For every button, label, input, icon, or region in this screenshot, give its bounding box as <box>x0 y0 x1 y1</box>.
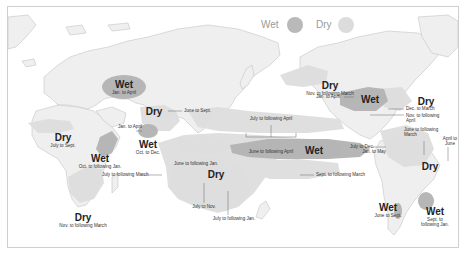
region-period-indonesia-australia: June to following Jan. <box>174 162 218 167</box>
region-period-central-america: June to following March <box>404 128 444 137</box>
region-period-west-africa: July to Sept. <box>50 144 75 149</box>
region-type-sri-lanka: Wet <box>139 140 157 150</box>
region-type-brazil: Dry <box>422 162 439 172</box>
iceland-landmass <box>22 59 36 67</box>
region-period-eastern-us: Dec. to March <box>406 107 435 112</box>
region-period-central-pacific: June to following April <box>249 150 293 155</box>
legend-dry-swatch <box>338 17 354 33</box>
new-zealand-landmass <box>256 201 270 219</box>
region-period-indonesia-march: July to following March <box>102 173 148 178</box>
region-period-central-pacific-north: July to following April <box>250 117 293 122</box>
region-type-central-asia: Wet <box>115 80 133 90</box>
region-period-brazil: April to June <box>439 137 459 146</box>
region-period-south-pacific: Sept. to following March <box>316 173 365 178</box>
region-type-east-africa: Wet <box>91 154 109 164</box>
region-period-ecuador: Jan. to May <box>362 150 386 155</box>
region-period-se-south-america: Sept. to following Jan. <box>418 218 452 227</box>
greenland-west-landmass <box>8 15 36 49</box>
region-type-alaska: Dry <box>322 81 339 91</box>
region-type-us-south: Wet <box>361 95 379 105</box>
region-period-sri-lanka: Oct. to Dec. <box>136 151 160 156</box>
region-period-india: June to Sept. <box>184 109 211 114</box>
region-type-central-pacific: Wet <box>305 146 323 156</box>
region-type-west-africa: Dry <box>55 133 72 143</box>
arctic-islands-landmass <box>66 23 130 35</box>
region-period-gulf: Nov. to following April <box>406 114 446 123</box>
region-type-se-south-america: Wet <box>426 207 444 217</box>
region-type-india: Dry <box>146 107 163 117</box>
legend-wet-label: Wet <box>261 19 279 30</box>
legend-dry-label: Dry <box>316 19 332 30</box>
region-period-us-south: Jan. to April <box>316 95 340 100</box>
region-period-australia-north: July to Nov. <box>192 205 216 210</box>
region-type-southern-africa: Dry <box>75 213 92 223</box>
region-type-indonesia-australia: Dry <box>208 170 225 180</box>
region-period-chile: June to Sept. <box>374 214 401 219</box>
region-period-sri-lanka-jan: Jan. to April <box>118 125 142 130</box>
region-period-australia-east: July to following Jan. <box>213 217 255 222</box>
legend-wet-swatch <box>287 17 303 33</box>
region-period-southern-africa: Nov. to following March <box>59 224 106 229</box>
region-type-chile: Wet <box>379 203 397 213</box>
region-period-central-asia: Jan. to April <box>112 91 136 96</box>
map-frame: Wet Dry Wet Jan. to April Dry June to Se… <box>7 6 459 248</box>
region-period-east-africa: Oct. to following Jan. <box>79 165 122 170</box>
